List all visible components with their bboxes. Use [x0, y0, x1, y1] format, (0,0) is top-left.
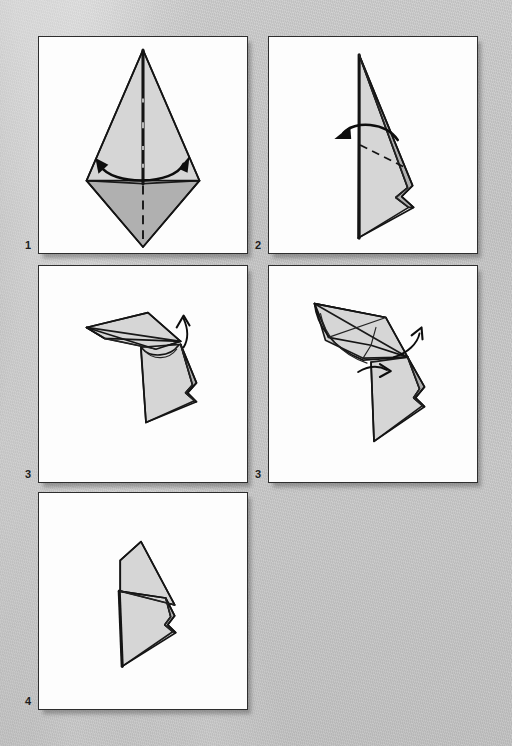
origami-figure-step-5 — [39, 493, 247, 709]
folded-body-face — [358, 55, 409, 238]
step-number-4: 4 — [25, 696, 31, 707]
step-number-3: 3 — [25, 469, 31, 480]
origami-figure-step-2 — [269, 37, 477, 253]
instruction-sheet: 1 2 — [0, 0, 512, 746]
panel-step-3-left[interactable] — [38, 265, 248, 483]
panel-step-2[interactable] — [268, 36, 478, 254]
origami-figure-step-1 — [39, 37, 247, 253]
origami-figure-step-4 — [269, 266, 477, 482]
arrow-head-up-right — [412, 327, 423, 339]
step-number-3-duplicate: 3 — [255, 469, 261, 480]
arrow-head-left — [334, 126, 351, 139]
panel-step-4[interactable] — [38, 492, 248, 710]
step-number-2: 2 — [255, 240, 261, 251]
panel-step-1[interactable] — [38, 36, 248, 254]
step-number-1: 1 — [25, 240, 31, 251]
origami-figure-step-3 — [39, 266, 247, 482]
panel-step-3-right[interactable] — [268, 265, 478, 483]
arrow-head-up — [177, 316, 190, 328]
